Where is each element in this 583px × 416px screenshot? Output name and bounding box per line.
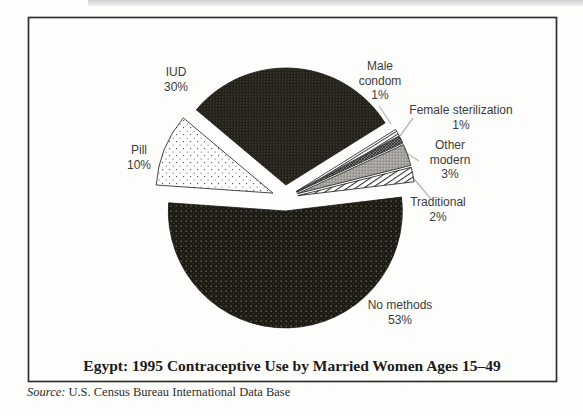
slice-label-pct: 30% [146, 80, 206, 95]
slice-label-name: Pill [113, 143, 165, 158]
slice-label-traditional: Traditional2% [383, 195, 493, 224]
slice-label-pct: 3% [416, 167, 484, 182]
slice-label-other-modern: Other modern3% [416, 138, 484, 182]
slice-label-pct: 1% [381, 118, 541, 133]
slice-label-pct: 2% [383, 210, 493, 225]
pie-svg [0, 0, 583, 416]
slice-label-name: No methods [345, 298, 455, 313]
slice-label-no-methods: No methods53% [345, 298, 455, 327]
slice-label-female-sterilization: Female sterilization1% [381, 103, 541, 132]
slice-label-male-condom: Male condom1% [348, 59, 412, 103]
slice-label-name: Female sterilization [381, 103, 541, 118]
slice-label-name: Male condom [348, 59, 412, 88]
slice-label-pill: Pill10% [113, 143, 165, 172]
chart-title: Egypt: 1995 Contraceptive Use by Married… [28, 357, 556, 375]
slice-label-iud: IUD30% [146, 65, 206, 94]
source-label: Source: [27, 385, 68, 399]
slice-label-pct: 1% [348, 88, 412, 103]
source-text: U.S. Census Bureau International Data Ba… [68, 385, 290, 399]
pie-slices [156, 68, 414, 328]
slice-label-name: Traditional [383, 195, 493, 210]
slice-label-name: Other modern [416, 138, 484, 167]
slice-label-pct: 53% [345, 313, 455, 328]
slice-label-name: IUD [146, 65, 206, 80]
source-line: Source:U.S. Census Bureau International … [27, 385, 290, 400]
slice-label-pct: 10% [113, 158, 165, 173]
page: IUD30%Male condom1%Female sterilization1… [0, 0, 583, 416]
